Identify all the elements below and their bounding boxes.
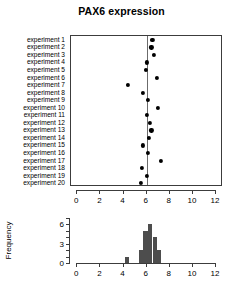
dotplot-category-label: experiment 4 (27, 58, 65, 65)
dotplot-category-label: experiment 2 (27, 43, 65, 50)
x-axis-tick-label: 2 (97, 196, 101, 205)
x-axis-tick (99, 263, 100, 267)
dotplot-category-label: experiment 3 (27, 50, 65, 57)
dotplot-x-axis: 024681012 (70, 190, 222, 210)
histogram-bar (139, 250, 143, 263)
x-axis-tick (192, 190, 193, 194)
dotplot-category-label: experiment 6 (27, 73, 65, 80)
dotplot-point (139, 181, 143, 185)
histogram-x-axis: 024681012 (70, 263, 222, 283)
x-axis-tick (99, 190, 100, 194)
x-axis-tick (76, 190, 77, 194)
dotplot-category-label: experiment 19 (23, 171, 65, 178)
x-axis-tick-label: 12 (211, 269, 220, 278)
histogram-y-axis: 036 (56, 218, 70, 263)
dotplot-category-label: experiment 20 (23, 179, 65, 186)
dotplot-point (148, 121, 152, 125)
dotplot-category-label: experiment 18 (23, 164, 65, 171)
dotplot-category-label: experiment 9 (27, 96, 65, 103)
x-axis-tick-label: 0 (74, 269, 78, 278)
dotplot-point (147, 136, 151, 140)
x-axis-tick-label: 4 (120, 269, 124, 278)
x-axis-tick (146, 263, 147, 267)
dotplot-point (146, 98, 150, 102)
x-axis-tick-label: 10 (187, 269, 196, 278)
dotplot-panel (70, 35, 222, 186)
page-title: PAX6 expression (0, 5, 243, 17)
dotplot-point (150, 38, 154, 42)
dotplot-category-label: experiment 14 (23, 133, 65, 140)
dotplot-category-label: experiment 7 (27, 81, 65, 88)
dotplot-reference-line (147, 36, 148, 185)
dotplot-category-label: experiment 16 (23, 149, 65, 156)
dotplot-category-label: experiment 12 (23, 118, 65, 125)
dotplot-point (149, 128, 153, 132)
x-axis-tick-label: 0 (74, 196, 78, 205)
histogram-bar (153, 237, 157, 263)
x-axis-tick (169, 263, 170, 267)
dotplot-category-label: experiment 8 (27, 88, 65, 95)
x-axis-tick-label: 8 (167, 196, 171, 205)
dotplot-point (156, 106, 160, 110)
histogram-bar (143, 231, 147, 263)
histogram-bar (148, 224, 152, 263)
dotplot-point (141, 143, 145, 147)
x-axis-tick (123, 263, 124, 267)
x-axis-tick (123, 190, 124, 194)
histogram-y-axis-title: Frequency (0, 218, 31, 263)
x-axis-tick (215, 190, 216, 194)
histogram-bar (157, 250, 161, 263)
x-axis-tick (169, 190, 170, 194)
dotplot-category-label: experiment 15 (23, 141, 65, 148)
x-axis-tick (192, 263, 193, 267)
dotplot-point (126, 83, 130, 87)
x-axis-tick-label: 6 (143, 196, 147, 205)
dotplot-category-label: experiment 5 (27, 65, 65, 72)
dotplot-category-label: experiment 11 (24, 111, 65, 118)
dotplot-category-label: experiment 10 (23, 103, 65, 110)
histogram-y-axis-tick-label: 3 (60, 239, 64, 248)
dotplot-point (141, 91, 145, 95)
x-axis-tick-label: 2 (97, 269, 101, 278)
dotplot-point (152, 53, 156, 57)
dotplot-point (158, 158, 162, 162)
histogram-panel (70, 218, 222, 263)
figure-canvas: PAX6 expression experiment 1experiment 2… (0, 0, 243, 293)
x-axis-tick (146, 190, 147, 194)
dotplot-category-label: experiment 1 (27, 35, 65, 42)
x-axis-tick-label: 10 (187, 196, 196, 205)
dotplot-y-axis-labels: experiment 1experiment 2experiment 3expe… (0, 35, 68, 186)
dotplot-point (146, 151, 150, 155)
x-axis-tick (215, 263, 216, 267)
dotplot-category-label: experiment 17 (23, 156, 65, 163)
x-axis-tick-label: 6 (143, 269, 147, 278)
x-axis-tick-label: 12 (211, 196, 220, 205)
dotplot-point (149, 45, 153, 49)
histogram-y-axis-tick-label: 0 (60, 259, 64, 268)
dotplot-plot-area (71, 36, 221, 185)
dotplot-point (140, 166, 144, 170)
dotplot-category-label: experiment 13 (23, 126, 65, 133)
x-axis-tick-label: 4 (120, 196, 124, 205)
dotplot-point (155, 75, 159, 79)
x-axis-tick (76, 263, 77, 267)
histogram-y-axis-tick-label: 6 (60, 220, 64, 229)
x-axis-tick-label: 8 (167, 269, 171, 278)
